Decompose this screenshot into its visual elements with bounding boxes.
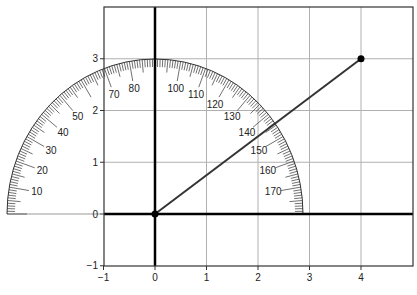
- protractor-tick: [20, 151, 27, 154]
- protractor-tick: [12, 174, 25, 177]
- protractor-tick: [285, 156, 292, 159]
- protractor-tick: [212, 72, 215, 79]
- protractor-tick: [15, 164, 23, 167]
- protractor-degree-label: 140: [239, 127, 256, 138]
- protractor-tick: [288, 166, 296, 168]
- origin-point: [152, 211, 159, 218]
- protractor-tick: [283, 151, 290, 154]
- protractor-degree-label: 110: [188, 89, 204, 100]
- protractor-degree-label: 160: [259, 165, 276, 176]
- protractor-tick: [177, 61, 178, 69]
- protractor-tick: [81, 80, 91, 97]
- protractor-tick: [8, 192, 16, 193]
- protractor-tick: [142, 60, 143, 73]
- protractor-tick: [97, 71, 100, 78]
- protractor-tick: [92, 74, 97, 86]
- protractor-tick: [287, 164, 295, 167]
- protractor-tick: [289, 169, 297, 171]
- protractor-tick: [27, 137, 44, 147]
- protractor-tick: [19, 153, 26, 156]
- protractor-tick: [165, 59, 166, 67]
- protractor-tick: [18, 156, 25, 159]
- protractor-tick: [14, 166, 22, 168]
- protractor-degree-label: 50: [72, 111, 84, 122]
- protractor-tick: [253, 114, 268, 127]
- protractor-tick: [292, 184, 300, 186]
- protractor-tick: [207, 70, 210, 77]
- protractor-tick: [119, 64, 121, 72]
- protractor-tick: [277, 148, 289, 153]
- protractor-degree-label: 130: [224, 111, 241, 122]
- y-tick-label: 0: [92, 209, 98, 220]
- protractor-degree-label: 20: [37, 165, 49, 176]
- protractor-tick: [285, 174, 298, 177]
- protractor-tick: [294, 198, 302, 199]
- protractor-tick: [198, 67, 200, 75]
- x-tick-label: 0: [152, 272, 158, 283]
- protractor-tick: [145, 59, 146, 67]
- protractor-degree-label: 150: [251, 145, 268, 156]
- protractor-tick: [122, 63, 124, 71]
- x-tick-label: 3: [307, 272, 313, 283]
- protractor-tick: [196, 66, 198, 74]
- protractor-tick: [294, 195, 302, 196]
- protractor-tick: [182, 62, 184, 70]
- protractor-tick: [170, 60, 171, 68]
- protractor-tick: [172, 60, 173, 68]
- protractor-tick: [291, 177, 299, 179]
- protractor-tick: [167, 60, 168, 73]
- x-tick-label: 1: [204, 272, 210, 283]
- protractor-tick: [291, 179, 299, 181]
- protractor-tick: [100, 70, 103, 77]
- y-tick-label: 2: [92, 105, 98, 116]
- protractor-tick: [286, 158, 293, 161]
- protractor-degree-label: 80: [129, 83, 141, 94]
- protractor-tick: [8, 198, 16, 199]
- protractor-tick: [281, 146, 288, 150]
- protractor-tick: [137, 60, 138, 68]
- protractor-tick: [232, 87, 239, 98]
- protractor-tick: [289, 200, 302, 201]
- protractor-tick: [212, 74, 217, 86]
- protractor-tick: [290, 171, 298, 173]
- protractor-tick: [295, 203, 303, 204]
- protractor-tick: [210, 71, 213, 78]
- protractor-tick: [8, 200, 21, 201]
- protractor-tick: [189, 64, 191, 72]
- protractor-tick: [184, 62, 186, 70]
- protractor-diagram: 10203040507080100110120130140150160170 −…: [0, 0, 417, 295]
- protractor-tick: [13, 169, 21, 171]
- protractor-tick: [16, 161, 35, 168]
- protractor-degree-label: 170: [265, 186, 282, 197]
- protractor-tick: [42, 114, 57, 127]
- protractor-tick: [60, 95, 73, 110]
- protractor-tick: [11, 179, 19, 181]
- x-tick-label: −1: [98, 272, 110, 283]
- protractor-tick: [11, 177, 19, 179]
- protractor-degree-label: 40: [58, 127, 70, 138]
- x-tick-label: 4: [358, 272, 364, 283]
- protractor-degree-label: 70: [108, 89, 120, 100]
- protractor-tick: [70, 87, 77, 98]
- protractor-degree-label: 30: [46, 145, 58, 156]
- protractor-tick: [292, 182, 300, 184]
- protractor-tick: [112, 66, 114, 74]
- protractor-tick: [95, 72, 98, 79]
- protractor-tick: [294, 192, 302, 193]
- protractor-degree-label: 10: [31, 186, 43, 197]
- protractor-tick: [114, 65, 116, 73]
- y-tick-label: 1: [92, 157, 98, 168]
- end-point: [358, 55, 365, 62]
- protractor-tick: [132, 61, 133, 69]
- protractor-tick: [22, 146, 29, 150]
- protractor-degree-label: 120: [207, 99, 224, 110]
- protractor-tick: [134, 61, 135, 69]
- protractor-tick: [21, 148, 33, 153]
- protractor-tick: [293, 190, 301, 191]
- protractor-tick: [194, 65, 196, 73]
- protractor-tick: [174, 61, 175, 69]
- protractor-tick: [186, 63, 188, 71]
- protractor-tick: [107, 67, 110, 75]
- protractor-tick: [109, 67, 111, 75]
- y-tick-label: −1: [87, 260, 99, 271]
